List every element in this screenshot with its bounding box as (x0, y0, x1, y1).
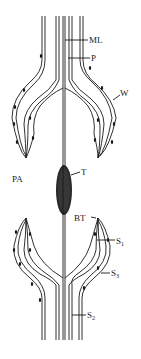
t-mass (56, 165, 72, 215)
diagram-canvas: ML P W PA T BT S1 S3 S2 (0, 0, 141, 359)
label-s2: S2 (87, 310, 95, 321)
label-p: P (91, 53, 96, 63)
label-w: W (120, 88, 129, 98)
label-ml: ML (89, 35, 103, 45)
label-bt: BT (74, 213, 86, 223)
label-s1: S1 (116, 236, 124, 247)
label-t: T (81, 167, 87, 177)
lower-wall-dots (13, 230, 109, 302)
lower-wall (14, 218, 110, 340)
label-pa: PA (12, 174, 23, 184)
lower-inner-layers (24, 218, 100, 285)
upper-inner-layers (24, 80, 104, 158)
label-s3: S3 (111, 268, 119, 279)
